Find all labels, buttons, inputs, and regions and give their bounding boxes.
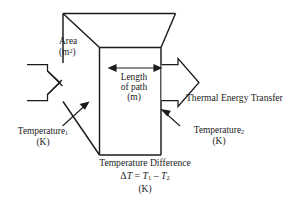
area-unit-close: ) <box>73 47 76 57</box>
temperature-2-name: Temperature <box>194 125 241 135</box>
length-dimension-arrow <box>109 65 161 71</box>
temperature-2-subscript: 2 <box>241 128 244 135</box>
temperature-difference-equation: ΔT = T1 – T2 <box>70 171 220 182</box>
temperature-2-unit: (K) <box>177 136 261 146</box>
temperature-1-label: Temperature1 <box>3 126 83 137</box>
temperature-1-subscript: 1 <box>65 129 68 136</box>
equation-minus: – <box>151 170 161 181</box>
area-label: Area <box>59 36 93 46</box>
temperature-difference-title: Temperature Difference <box>70 158 220 168</box>
temperature-1-unit: (K) <box>3 137 83 147</box>
temperature-2-leader <box>162 110 180 126</box>
temperature-2-label: Temperature2 <box>177 125 261 136</box>
area-unit-open: (m <box>59 47 69 57</box>
temperature-1-name: Temperature <box>18 126 65 136</box>
area-unit: (m2) <box>59 47 93 57</box>
heat-input-arrow <box>27 65 63 101</box>
thermal-energy-transfer-label: Thermal Energy Transfer <box>186 93 283 103</box>
temperature-difference-unit: (K) <box>70 184 220 194</box>
diagram-canvas: Area (m2) Length of path (m) Thermal Ene… <box>0 0 295 208</box>
length-of-path-line1: Length <box>106 72 162 82</box>
equation-equals: = <box>132 170 142 181</box>
length-of-path-line2: of path <box>106 82 162 92</box>
equation-T2-subscript: 2 <box>166 174 169 181</box>
length-of-path-unit: (m) <box>106 92 162 102</box>
